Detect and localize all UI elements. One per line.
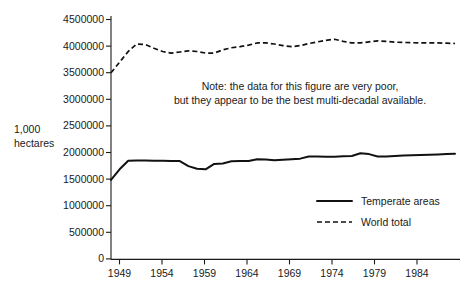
legend-label-temperate-areas: Temperate areas xyxy=(361,195,440,207)
y-axis-ticks xyxy=(106,20,111,259)
y-tick-label: 4500000 xyxy=(63,13,104,25)
x-tick-label: 1969 xyxy=(278,267,302,279)
y-tick-label: 1500000 xyxy=(63,173,104,185)
x-axis-tick-labels: 1949 1954 1959 1964 1969 1974 1979 1984 xyxy=(108,267,429,279)
x-tick-label: 1984 xyxy=(405,267,429,279)
y-tick-label: 1000000 xyxy=(63,199,104,211)
y-axis-label-line1: 1,000 xyxy=(14,123,40,135)
x-tick-label: 1949 xyxy=(108,267,132,279)
y-tick-label: 3500000 xyxy=(63,66,104,78)
y-tick-label: 2000000 xyxy=(63,146,104,158)
note-line-1: Note: the data for this figure are very … xyxy=(202,80,399,92)
x-tick-label: 1964 xyxy=(235,267,259,279)
series-line-world-total xyxy=(111,39,455,73)
y-axis-label-line2: hectares xyxy=(14,137,54,149)
series-line-temperate-areas xyxy=(111,153,455,180)
x-tick-label: 1959 xyxy=(193,267,217,279)
data-quality-note: Note: the data for this figure are very … xyxy=(174,80,426,106)
y-axis-tick-labels: 4500000 4000000 3500000 3000000 2500000 … xyxy=(63,13,104,264)
chart-legend: Temperate areas World total xyxy=(317,195,440,228)
note-line-2: but they appear to be the best multi-dec… xyxy=(174,94,426,106)
chart-container: 1,000 hectares 4500000 4000000 3500000 3… xyxy=(0,0,466,299)
legend-label-world-total: World total xyxy=(361,216,411,228)
y-tick-label: 500000 xyxy=(69,226,104,238)
x-tick-label: 1954 xyxy=(150,267,174,279)
x-tick-label: 1979 xyxy=(363,267,387,279)
line-chart: 1,000 hectares 4500000 4000000 3500000 3… xyxy=(0,0,466,299)
x-tick-label: 1974 xyxy=(320,267,344,279)
y-tick-label: 4000000 xyxy=(63,40,104,52)
y-tick-label: 2500000 xyxy=(63,119,104,131)
y-tick-label: 3000000 xyxy=(63,93,104,105)
x-axis-ticks xyxy=(120,259,418,264)
y-tick-label: 0 xyxy=(98,252,104,264)
